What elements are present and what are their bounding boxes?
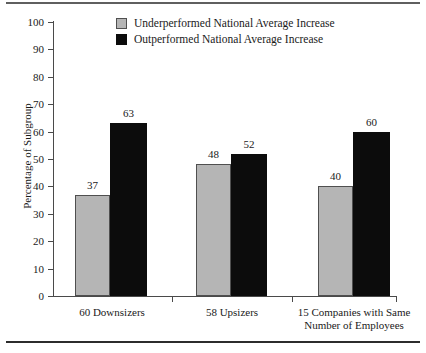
- y-axis-label-40: 40: [4, 181, 44, 192]
- x-axis-line: [53, 296, 396, 297]
- y-axis-tick-50: [48, 159, 53, 160]
- y-axis-tick-30: [48, 214, 53, 215]
- x-axis-tick-end: [396, 296, 397, 302]
- chart-figure: Underperformed National Average Increase…: [0, 0, 426, 353]
- bar-underperformed-group-1: [75, 195, 110, 296]
- x-axis-category-line: 60 Downsizers: [42, 306, 182, 319]
- y-axis-label-30: 30: [4, 209, 44, 220]
- y-axis-tick-70: [48, 104, 53, 105]
- bar-value-label-outperformed-group-1: 63: [109, 108, 149, 119]
- x-axis-tick-1: [172, 296, 173, 302]
- bar-underperformed-group-3: [318, 186, 353, 296]
- y-axis-label-100: 100: [4, 17, 44, 28]
- legend-item-outperformed: Outperformed National Average Increase: [116, 32, 335, 46]
- legend-swatch-black-icon: [116, 34, 127, 45]
- y-axis-label-10: 10: [4, 264, 44, 275]
- y-axis-tick-80: [48, 77, 53, 78]
- x-axis-category-line: Number of Employees: [284, 319, 424, 332]
- bar-value-label-outperformed-group-2: 52: [229, 139, 269, 150]
- y-axis-tick-20: [48, 241, 53, 242]
- bottom-rule: [6, 341, 420, 343]
- y-axis-tick-60: [48, 132, 53, 133]
- x-axis-tick-2: [292, 296, 293, 302]
- x-axis-category-line: 15 Companies with Same: [284, 306, 424, 319]
- y-axis-label-0: 0: [4, 291, 44, 302]
- bar-value-label-underperformed-group-1: 37: [73, 180, 113, 191]
- y-axis-line: [53, 21, 54, 297]
- y-axis-tick-90: [48, 49, 53, 50]
- y-axis-label-70: 70: [4, 99, 44, 110]
- bar-outperformed-group-2: [231, 154, 267, 296]
- y-axis-tick-10: [48, 269, 53, 270]
- y-axis-tick-0: [48, 296, 53, 297]
- y-axis-label-60: 60: [4, 127, 44, 138]
- top-rule: [6, 2, 420, 4]
- legend-item-underperformed: Underperformed National Average Increase: [116, 16, 335, 30]
- bar-value-label-underperformed-group-2: 48: [194, 149, 234, 160]
- legend-swatch-gray-icon: [116, 18, 127, 29]
- y-axis-tick-40: [48, 186, 53, 187]
- legend-label-underperformed: Underperformed National Average Increase: [134, 17, 335, 29]
- x-axis-category-label-2: 58 Upsizers: [162, 306, 302, 319]
- chart-legend: Underperformed National Average Increase…: [116, 16, 335, 48]
- y-axis-label-90: 90: [4, 44, 44, 55]
- bar-value-label-underperformed-group-3: 40: [316, 171, 356, 182]
- legend-label-outperformed: Outperformed National Average Increase: [134, 33, 323, 45]
- bar-value-label-outperformed-group-3: 60: [352, 117, 392, 128]
- bar-underperformed-group-2: [196, 164, 231, 296]
- y-axis-label-50: 50: [4, 154, 44, 165]
- y-axis-label-20: 20: [4, 236, 44, 247]
- x-axis-category-label-3: 15 Companies with SameNumber of Employee…: [284, 306, 424, 332]
- x-axis-category-label-1: 60 Downsizers: [42, 306, 182, 319]
- bar-outperformed-group-1: [110, 123, 147, 296]
- x-axis-category-line: 58 Upsizers: [162, 306, 302, 319]
- y-axis-label-80: 80: [4, 72, 44, 83]
- y-axis-tick-100: [48, 22, 53, 23]
- bar-outperformed-group-3: [353, 132, 390, 296]
